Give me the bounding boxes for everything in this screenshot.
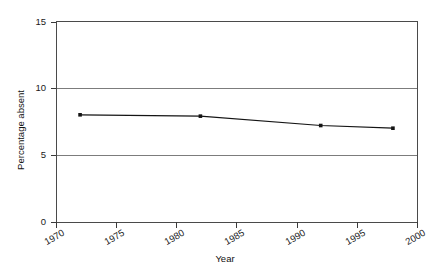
x-axis-title: Year <box>215 253 234 264</box>
x-tick-label-1985: 1985 <box>222 227 246 247</box>
plot-area-background <box>56 21 417 222</box>
y-tick-label-5: 5 <box>41 149 46 160</box>
data-point <box>199 114 203 118</box>
x-tick-label-1980: 1980 <box>162 227 186 247</box>
data-point <box>78 113 82 117</box>
data-point <box>319 124 323 128</box>
x-tick-marks <box>56 222 417 228</box>
x-tick-label-1995: 1995 <box>343 227 367 247</box>
y-tick-labels: 15 10 5 0 <box>35 16 46 227</box>
x-tick-label-2000: 2000 <box>403 227 427 247</box>
y-tick-label-0: 0 <box>41 216 46 227</box>
x-tick-label-1970: 1970 <box>42 227 66 247</box>
data-point <box>391 126 395 130</box>
y-axis-title: Percentage absent <box>15 90 26 170</box>
line-chart: 15 10 5 0 1970 1975 1980 1985 1990 1995 … <box>0 0 448 269</box>
x-tick-label-1975: 1975 <box>102 227 126 247</box>
chart-container: 15 10 5 0 1970 1975 1980 1985 1990 1995 … <box>0 0 448 269</box>
x-tick-labels: 1970 1975 1980 1985 1990 1995 2000 <box>42 227 427 247</box>
y-tick-label-10: 10 <box>35 82 46 93</box>
y-tick-label-15: 15 <box>35 16 46 27</box>
y-tick-marks <box>51 22 56 222</box>
x-tick-label-1990: 1990 <box>283 227 307 247</box>
